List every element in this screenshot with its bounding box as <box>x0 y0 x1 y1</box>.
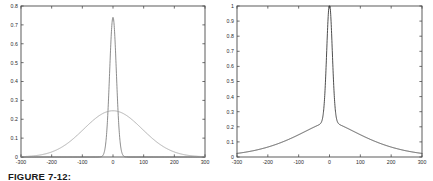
y-tick-label: 0.4 <box>11 78 18 84</box>
x-tick-label: 300 <box>418 159 427 165</box>
axis-frame <box>21 6 205 157</box>
plot-panel-left: 00.10.20.30.40.50.60.70.8-300-200-100010… <box>0 0 216 172</box>
x-tick-label: -100 <box>77 159 87 165</box>
y-tick-label: 0.3 <box>11 97 18 103</box>
x-tick-label: -100 <box>293 159 303 165</box>
curve-narrow-peak <box>21 17 205 157</box>
y-tick-label: 0.3 <box>227 109 234 115</box>
chart-left: 00.10.20.30.40.50.60.70.8-300-200-100010… <box>0 0 216 172</box>
y-tick-label: 0.8 <box>227 33 234 39</box>
x-tick-label: -300 <box>232 159 242 165</box>
y-tick-label: 0.5 <box>11 60 18 66</box>
x-tick-label: 100 <box>139 159 148 165</box>
y-tick-label: 0.9 <box>227 18 234 24</box>
y-tick-label: 0.6 <box>11 41 18 47</box>
y-tick-label: 0.2 <box>227 124 234 130</box>
plot-panel-right: 00.10.20.30.40.50.60.70.80.91-300-200-10… <box>216 0 433 172</box>
x-tick-label: 300 <box>201 159 210 165</box>
y-tick-label: 0.2 <box>11 116 18 122</box>
y-tick-label: 0.5 <box>227 78 234 84</box>
x-tick-label: -200 <box>46 159 56 165</box>
y-tick-label: 0.6 <box>227 63 234 69</box>
y-tick-label: 1 <box>231 3 234 9</box>
figure-caption: FIGURE 7-12: <box>8 171 433 181</box>
x-tick-label: 200 <box>387 159 396 165</box>
curve-broad-peak <box>21 111 205 157</box>
x-tick-label: 0 <box>112 159 115 165</box>
x-tick-label: -300 <box>16 159 26 165</box>
y-tick-label: 0.8 <box>11 3 18 9</box>
y-tick-label: 0.1 <box>227 139 234 145</box>
axis-frame <box>237 6 422 157</box>
chart-right: 00.10.20.30.40.50.60.70.80.91-300-200-10… <box>216 0 433 172</box>
x-tick-label: -200 <box>263 159 273 165</box>
x-tick-label: 0 <box>328 159 331 165</box>
y-tick-label: 0.7 <box>227 48 234 54</box>
figure-container: 00.10.20.30.40.50.60.70.8-300-200-100010… <box>0 0 433 181</box>
x-tick-label: 200 <box>170 159 179 165</box>
y-tick-label: 0.1 <box>11 135 18 141</box>
x-tick-label: 100 <box>356 159 365 165</box>
y-tick-label: 0.7 <box>11 22 18 28</box>
curve-cusp-curve <box>237 6 422 153</box>
y-tick-label: 0.4 <box>227 94 234 100</box>
